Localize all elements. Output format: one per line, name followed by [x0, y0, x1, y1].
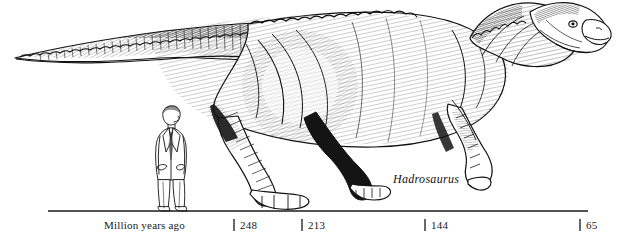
hadrosaurus-scale-figure: [0, 0, 619, 234]
timeline-tick-label-213: 213: [308, 219, 325, 231]
timeline-tick-label-65: 65: [586, 219, 597, 231]
timeline-tick-label-144: 144: [431, 219, 448, 231]
timeline-caption: Million years ago: [104, 219, 185, 231]
timeline-tick-label-248: 248: [240, 219, 257, 231]
species-label: Hadrosaurus: [393, 172, 459, 187]
